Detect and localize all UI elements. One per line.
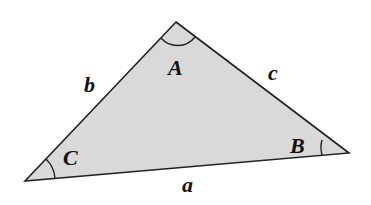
vertex-label-a: A — [166, 55, 183, 80]
side-label-b: b — [84, 72, 95, 97]
vertex-label-b: B — [289, 133, 305, 158]
triangle-diagram: A B C a b c — [0, 0, 371, 205]
vertex-label-c: C — [63, 145, 78, 170]
side-label-c: c — [268, 60, 278, 85]
side-label-a: a — [182, 172, 193, 197]
